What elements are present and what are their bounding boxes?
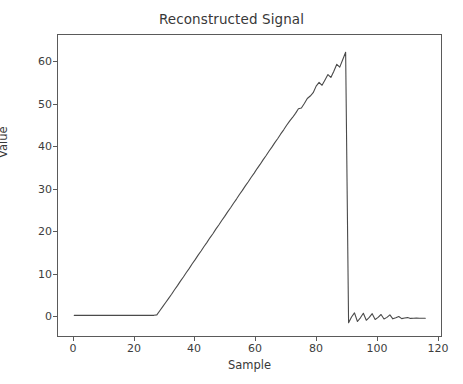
x-tick-label: 80 — [286, 343, 346, 354]
x-tick-label: 60 — [225, 343, 285, 354]
y-axis-label: Value — [0, 126, 10, 158]
x-tick-label: 40 — [164, 343, 224, 354]
y-tick-label: 30 — [38, 184, 52, 195]
x-axis-label: Sample — [57, 358, 442, 372]
chart-title: Reconstructed Signal — [0, 11, 463, 27]
x-tick-label: 100 — [347, 343, 407, 354]
y-tick-label: 20 — [38, 226, 52, 237]
reconstructed-signal-line — [74, 52, 425, 322]
signal-line-chart — [58, 35, 443, 338]
y-tick-label: 10 — [38, 269, 52, 280]
y-tick-label: 40 — [38, 141, 52, 152]
x-tick-label: 120 — [408, 343, 463, 354]
y-tick-label: 60 — [38, 56, 52, 67]
y-tick-label: 50 — [38, 99, 52, 110]
x-tick-label: 20 — [104, 343, 164, 354]
x-tick-label: 0 — [43, 343, 103, 354]
plot-area — [57, 34, 442, 337]
y-tick-label: 0 — [45, 311, 52, 322]
chart-figure: Reconstructed Signal Value Sample 60 50 … — [0, 0, 463, 384]
